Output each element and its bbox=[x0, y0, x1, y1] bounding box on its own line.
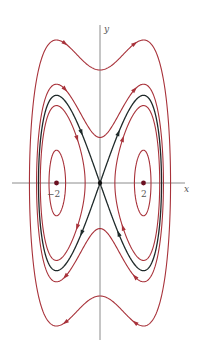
direction-arrow bbox=[120, 136, 124, 143]
y-axis-label: y bbox=[103, 24, 110, 34]
direction-arrow bbox=[117, 230, 121, 237]
saddle-point bbox=[98, 181, 102, 185]
center-point bbox=[141, 181, 146, 186]
direction-arrow bbox=[76, 224, 80, 231]
x-tick-label: −2 bbox=[47, 189, 60, 199]
direction-arrow bbox=[61, 40, 67, 45]
direction-arrow bbox=[115, 130, 119, 137]
direction-arrow bbox=[78, 129, 82, 136]
x-axis-label: x bbox=[184, 184, 189, 194]
phase-portrait: x y −2 2 bbox=[0, 0, 201, 345]
direction-arrow bbox=[80, 230, 84, 237]
direction-arrow bbox=[132, 321, 138, 326]
x-tick-label: 2 bbox=[141, 189, 147, 199]
direction-arrow bbox=[74, 135, 78, 142]
center-point bbox=[54, 181, 59, 186]
direction-arrow bbox=[122, 224, 126, 231]
